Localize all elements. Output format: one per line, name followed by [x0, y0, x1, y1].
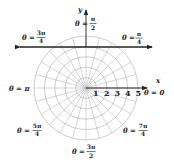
angle-label-0: θ = 0: [144, 88, 164, 97]
radius-tick-3: 3: [115, 88, 121, 98]
angle-label-pi-4: θ = π 4: [122, 30, 143, 45]
angle-label-3pi-4: θ = 3π 4: [22, 29, 46, 44]
svg-text:θ =: θ =: [123, 126, 136, 135]
radius-tick-5: 5: [136, 88, 142, 98]
svg-text:θ = 0: θ = 0: [144, 88, 164, 97]
radius-tick-2: 2: [104, 88, 110, 98]
svg-text:7π: 7π: [139, 122, 148, 129]
svg-text:3π: 3π: [37, 29, 46, 36]
svg-text:4: 4: [137, 38, 141, 45]
svg-text:4: 4: [35, 130, 39, 137]
x-axis-label: x: [155, 76, 161, 85]
angle-label-7pi-4: θ = 7π 4: [123, 122, 148, 137]
svg-text:5π: 5π: [33, 122, 42, 129]
svg-text:4: 4: [39, 37, 43, 44]
svg-text:θ =: θ =: [122, 33, 135, 42]
svg-text:3π: 3π: [87, 143, 96, 150]
radius-tick-4: 4: [125, 88, 131, 98]
svg-text:θ = π: θ = π: [9, 84, 30, 93]
svg-text:2: 2: [89, 152, 93, 159]
svg-text:π: π: [137, 30, 142, 37]
radius-tick-1: 1: [93, 88, 99, 98]
polar-coordinate-diagram: y x 1 2 3 4 5 θ = 0 θ = π 4 θ = π 2 θ = …: [0, 0, 174, 167]
angle-label-3pi-2: θ = 3π 2: [72, 143, 96, 159]
svg-text:θ =: θ =: [17, 126, 30, 135]
svg-text:θ =: θ =: [75, 19, 88, 28]
svg-text:π: π: [91, 15, 96, 22]
svg-text:4: 4: [141, 130, 145, 137]
angle-label-pi: θ = π: [9, 84, 30, 93]
svg-text:θ =: θ =: [72, 147, 85, 156]
angle-label-5pi-4: θ = 5π 4: [17, 122, 42, 137]
svg-text:2: 2: [91, 24, 95, 31]
y-axis-label: y: [77, 5, 83, 14]
svg-text:θ =: θ =: [22, 33, 35, 42]
